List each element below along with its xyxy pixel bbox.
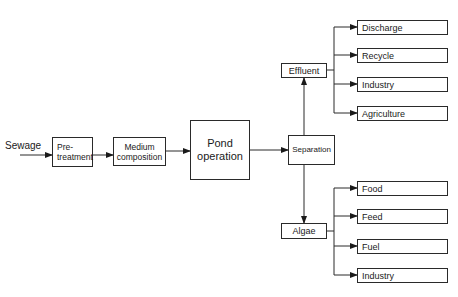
effluent-node: Effluent [281,63,327,78]
algae-node: Algae [281,223,327,239]
output-feed: Feed [357,209,448,224]
sewage-label: Sewage [5,140,41,151]
output-agriculture: Agriculture [357,106,448,121]
output-industry-effluent: Industry [357,77,448,92]
output-fuel: Fuel [357,239,448,254]
output-recycle: Recycle [357,48,448,63]
pretreatment-node: Pre- treatment [52,137,93,167]
medium-composition-node: Medium composition [113,137,166,166]
output-food: Food [357,181,448,196]
separation-node: Separation [288,135,335,165]
output-discharge: Discharge [357,20,448,35]
output-industry-algae: Industry [357,268,448,283]
pond-operation-node: Pond operation [190,120,250,180]
